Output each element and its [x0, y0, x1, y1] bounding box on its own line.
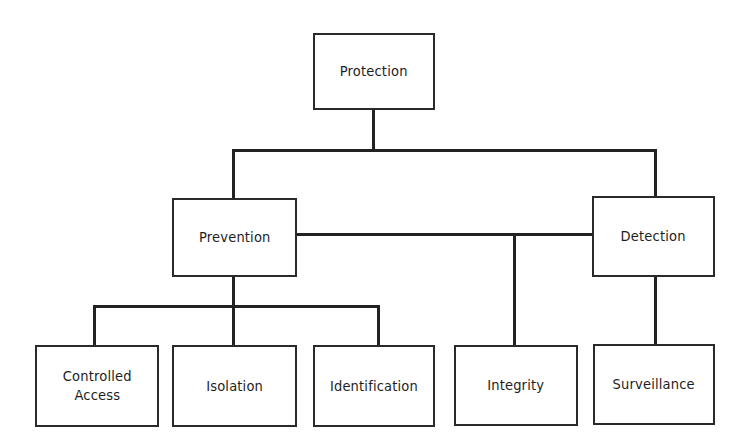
connector-prevention-children-bus — [93, 305, 380, 308]
connector-controlled-access-drop — [93, 305, 96, 346]
connector-protection-stem — [372, 108, 375, 151]
node-protection-label: Protection — [340, 62, 408, 81]
node-isolation: Isolation — [172, 345, 297, 427]
connector-prevention-drop — [232, 149, 235, 199]
node-detection: Detection — [592, 196, 715, 277]
connector-detection-drop — [654, 149, 657, 197]
node-protection: Protection — [313, 33, 435, 110]
connector-prevention-stem — [232, 275, 235, 346]
node-surveillance-label: Surveillance — [613, 375, 695, 394]
connector-prevention-detection — [295, 233, 593, 236]
connector-integrity-drop — [513, 233, 516, 346]
connector-identification-drop — [377, 305, 380, 346]
node-surveillance: Surveillance — [593, 344, 715, 425]
node-controlled-access: Controlled Access — [35, 345, 159, 427]
node-integrity: Integrity — [454, 345, 578, 426]
node-prevention: Prevention — [172, 198, 297, 277]
connector-level2-bus — [232, 149, 657, 152]
node-identification-label: Identification — [330, 377, 418, 396]
connector-surveillance-drop — [654, 275, 657, 345]
node-prevention-label: Prevention — [199, 228, 271, 247]
node-detection-label: Detection — [621, 227, 686, 246]
node-controlled-access-label: Controlled Access — [63, 367, 132, 405]
node-isolation-label: Isolation — [206, 377, 263, 396]
node-integrity-label: Integrity — [487, 376, 544, 395]
node-identification: Identification — [313, 345, 435, 427]
